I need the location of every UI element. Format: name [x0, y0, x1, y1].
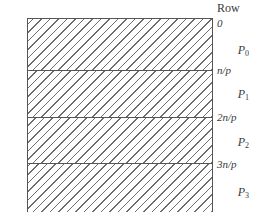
process-band-p1: [28, 71, 212, 118]
matrix-rectangle: [27, 18, 213, 212]
row-tick-1: n/p: [217, 65, 231, 76]
process-label-p3-subscript: 3: [245, 191, 249, 200]
row-column-heading: Row: [217, 2, 240, 14]
process-label-p1-subscript: 1: [245, 93, 249, 102]
process-label-p1: P1: [226, 88, 253, 100]
process-band-p0: [28, 19, 212, 71]
process-label-p0-name: P: [238, 43, 245, 57]
process-label-p2-name: P: [238, 135, 245, 149]
row-tick-2: 2n/p: [217, 112, 237, 123]
process-label-p0: P0: [226, 44, 253, 56]
process-band-p3: [28, 164, 212, 212]
process-band-p2: [28, 118, 212, 164]
process-label-p0-subscript: 0: [245, 49, 249, 58]
process-label-p3: P3: [226, 186, 253, 198]
row-tick-0: 0: [217, 18, 223, 29]
process-label-p3-name: P: [238, 185, 245, 199]
row-wise-block-decomposition-figure: Row P0 P1 P2 P3 0 n/p 2n/p 3n/p: [0, 0, 253, 222]
process-label-p2: P2: [226, 136, 253, 148]
process-label-p2-subscript: 2: [245, 141, 249, 150]
process-label-p1-name: P: [238, 87, 245, 101]
row-tick-3: 3n/p: [217, 159, 237, 170]
